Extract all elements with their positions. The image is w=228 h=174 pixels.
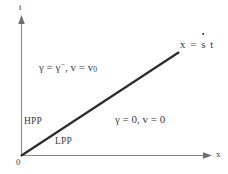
- shock-line-label: x = s t: [180, 39, 213, 50]
- x-axis-label: x: [216, 150, 221, 159]
- lpp-label: LPP: [55, 137, 72, 147]
- s-dot-symbol: s: [201, 39, 205, 50]
- x-axis-arrowhead: [203, 152, 212, 159]
- v-zero-subscript: 0: [93, 65, 97, 74]
- time-derivative-dot-icon: [203, 33, 205, 35]
- spacetime-diagram-figure: t x 0 x = s t γ = γ−, v = v0 γ = 0, v = …: [0, 0, 228, 174]
- origin-label: 0: [16, 158, 21, 167]
- diagram-canvas: [0, 0, 228, 174]
- shock-label-s: s: [201, 38, 205, 50]
- t-axis-label: t: [19, 3, 22, 12]
- lower-right-state-equation: γ = 0, v = 0: [115, 114, 165, 125]
- shock-label-x: x: [180, 38, 186, 50]
- shock-label-equals: =: [190, 38, 196, 50]
- v-equals-v-zero: , v = v: [65, 61, 93, 73]
- gamma-equals-gamma-minus: γ = γ: [39, 61, 60, 73]
- upper-left-state-equation: γ = γ−, v = v0: [39, 61, 97, 74]
- t-axis-arrowhead: [18, 15, 25, 24]
- hpp-label: HPP: [24, 117, 42, 127]
- shock-label-t: t: [210, 38, 213, 50]
